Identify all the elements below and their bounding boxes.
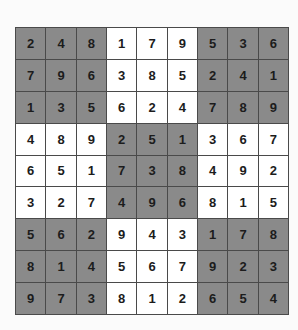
sudoku-cell[interactable]: 5 [168, 60, 197, 91]
sudoku-cell[interactable]: 9 [259, 92, 288, 123]
sudoku-cell[interactable]: 1 [137, 283, 166, 314]
sudoku-cell[interactable]: 5 [107, 251, 136, 282]
sudoku-cell[interactable]: 9 [228, 156, 257, 187]
sudoku-cell[interactable]: 7 [77, 187, 106, 218]
sudoku-cell[interactable]: 5 [46, 156, 75, 187]
sudoku-cell[interactable]: 2 [228, 251, 257, 282]
sudoku-cell[interactable]: 7 [228, 219, 257, 250]
sudoku-cell[interactable]: 3 [168, 219, 197, 250]
sudoku-cell[interactable]: 3 [16, 187, 45, 218]
sudoku-cell[interactable]: 7 [168, 251, 197, 282]
sudoku-cell[interactable]: 3 [259, 251, 288, 282]
sudoku-cell[interactable]: 9 [107, 219, 136, 250]
sudoku-cell[interactable]: 9 [198, 251, 227, 282]
sudoku-cell[interactable]: 8 [168, 156, 197, 187]
sudoku-cell[interactable]: 4 [228, 60, 257, 91]
sudoku-cell[interactable]: 4 [198, 156, 227, 187]
sudoku-cell[interactable]: 2 [259, 156, 288, 187]
sudoku-cell[interactable]: 7 [46, 283, 75, 314]
sudoku-cell[interactable]: 2 [16, 28, 45, 59]
sudoku-cell[interactable]: 4 [46, 28, 75, 59]
sudoku-cell[interactable]: 6 [168, 187, 197, 218]
sudoku-cell[interactable]: 9 [16, 283, 45, 314]
sudoku-cell[interactable]: 6 [198, 283, 227, 314]
sudoku-cell[interactable]: 4 [107, 187, 136, 218]
sudoku-cell[interactable]: 1 [77, 156, 106, 187]
sudoku-cell[interactable]: 7 [107, 156, 136, 187]
sudoku-cell[interactable]: 4 [168, 92, 197, 123]
sudoku-cell[interactable]: 6 [228, 124, 257, 155]
sudoku-cell[interactable]: 3 [46, 92, 75, 123]
sudoku-cell[interactable]: 4 [16, 124, 45, 155]
sudoku-cell[interactable]: 2 [137, 92, 166, 123]
sudoku-cell[interactable]: 5 [198, 28, 227, 59]
sudoku-cell[interactable]: 8 [77, 28, 106, 59]
sudoku-cell[interactable]: 6 [259, 28, 288, 59]
sudoku-cell[interactable]: 8 [259, 219, 288, 250]
sudoku-cell[interactable]: 1 [198, 219, 227, 250]
sudoku-cell[interactable]: 3 [107, 60, 136, 91]
sudoku-cell[interactable]: 8 [137, 60, 166, 91]
sudoku-cell[interactable]: 8 [46, 124, 75, 155]
sudoku-cell[interactable]: 8 [16, 251, 45, 282]
sudoku-cell[interactable]: 1 [46, 251, 75, 282]
sudoku-cell[interactable]: 2 [198, 60, 227, 91]
sudoku-grid: 2481795367963852411356247894892513676517… [15, 27, 289, 315]
sudoku-cell[interactable]: 3 [228, 28, 257, 59]
sudoku-cell[interactable]: 4 [137, 219, 166, 250]
sudoku-cell[interactable]: 2 [107, 124, 136, 155]
sudoku-cell[interactable]: 5 [137, 124, 166, 155]
sudoku-cell[interactable]: 8 [228, 92, 257, 123]
sudoku-cell[interactable]: 3 [77, 283, 106, 314]
sudoku-cell[interactable]: 1 [107, 28, 136, 59]
sudoku-cell[interactable]: 3 [198, 124, 227, 155]
sudoku-cell[interactable]: 8 [198, 187, 227, 218]
sudoku-cell[interactable]: 9 [137, 187, 166, 218]
sudoku-cell[interactable]: 6 [16, 156, 45, 187]
sudoku-cell[interactable]: 9 [46, 60, 75, 91]
sudoku-cell[interactable]: 2 [168, 283, 197, 314]
sudoku-cell[interactable]: 5 [16, 219, 45, 250]
sudoku-cell[interactable]: 1 [168, 124, 197, 155]
sudoku-cell[interactable]: 7 [259, 124, 288, 155]
sudoku-cell[interactable]: 5 [259, 187, 288, 218]
sudoku-cell[interactable]: 1 [228, 187, 257, 218]
sudoku-cell[interactable]: 9 [168, 28, 197, 59]
sudoku-cell[interactable]: 4 [259, 283, 288, 314]
sudoku-cell[interactable]: 6 [77, 60, 106, 91]
sudoku-cell[interactable]: 2 [46, 187, 75, 218]
sudoku-cell[interactable]: 2 [77, 219, 106, 250]
sudoku-cell[interactable]: 9 [77, 124, 106, 155]
sudoku-cell[interactable]: 6 [107, 92, 136, 123]
sudoku-cell[interactable]: 7 [198, 92, 227, 123]
sudoku-cell[interactable]: 1 [16, 92, 45, 123]
sudoku-cell[interactable]: 3 [137, 156, 166, 187]
sudoku-cell[interactable]: 7 [16, 60, 45, 91]
sudoku-cell[interactable]: 6 [137, 251, 166, 282]
sudoku-cell[interactable]: 5 [228, 283, 257, 314]
sudoku-cell[interactable]: 1 [259, 60, 288, 91]
sudoku-cell[interactable]: 7 [137, 28, 166, 59]
sudoku-cell[interactable]: 8 [107, 283, 136, 314]
sudoku-cell[interactable]: 5 [77, 92, 106, 123]
sudoku-cell[interactable]: 4 [77, 251, 106, 282]
sudoku-cell[interactable]: 6 [46, 219, 75, 250]
